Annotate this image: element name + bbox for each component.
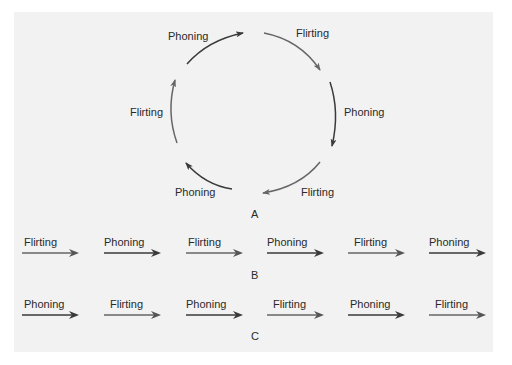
cycle-label-bottom-right: Flirting <box>301 186 334 198</box>
step-label: Phoning <box>24 298 64 310</box>
right-arrow-icon <box>267 311 325 319</box>
arc-arrow-left <box>171 80 177 143</box>
cycle-label-bottom-left: Phoning <box>175 186 215 198</box>
step-label: Phoning <box>429 236 469 248</box>
sequence-c-step: Flirting <box>429 298 487 322</box>
step-label: Flirting <box>24 236 57 248</box>
right-arrow-icon <box>22 311 80 319</box>
step-label: Flirting <box>188 236 221 248</box>
right-arrow-icon <box>104 249 162 257</box>
step-label: Phoning <box>104 236 144 248</box>
cycle-label-top-left: Phoning <box>168 30 208 42</box>
right-arrow-icon <box>186 249 244 257</box>
step-label: Flirting <box>110 298 143 310</box>
right-arrow-icon <box>348 249 406 257</box>
sequence-c-step: Phoning <box>348 298 406 322</box>
right-arrow-icon <box>429 249 487 257</box>
step-label: Phoning <box>267 236 307 248</box>
sequence-c-step: Flirting <box>267 298 325 322</box>
sequence-b-step: Flirting <box>186 236 244 260</box>
step-label: Phoning <box>350 298 390 310</box>
right-arrow-icon <box>267 249 325 257</box>
right-arrow-icon <box>22 249 80 257</box>
right-arrow-icon <box>186 311 244 319</box>
step-label: Phoning <box>186 298 226 310</box>
arc-arrow-right <box>330 82 336 146</box>
right-arrow-icon <box>104 311 162 319</box>
cycle-label-right: Phoning <box>344 106 384 118</box>
step-label: Flirting <box>273 298 306 310</box>
sequence-b-step: Phoning <box>267 236 325 260</box>
cycle-label-top-right: Flirting <box>296 27 329 39</box>
cycle-label-left: Flirting <box>130 106 163 118</box>
panel-label-a: A <box>251 208 258 220</box>
step-label: Flirting <box>354 236 387 248</box>
panel-label-b: B <box>251 269 258 281</box>
sequence-c-step: Flirting <box>104 298 162 322</box>
sequence-c-step: Phoning <box>22 298 80 322</box>
sequence-b-step: Phoning <box>104 236 162 260</box>
sequence-b-step: Flirting <box>348 236 406 260</box>
sequence-c-step: Phoning <box>186 298 244 322</box>
sequence-b-step: Phoning <box>429 236 487 260</box>
right-arrow-icon <box>429 311 487 319</box>
step-label: Flirting <box>435 298 468 310</box>
panel-label-c: C <box>251 330 259 342</box>
right-arrow-icon <box>348 311 406 319</box>
sequence-b-step: Flirting <box>22 236 80 260</box>
